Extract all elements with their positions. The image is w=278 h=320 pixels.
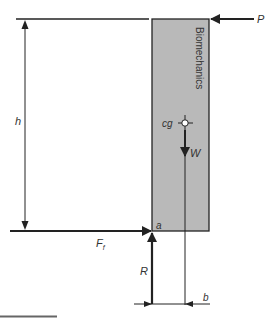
- moment-arm-arrow-right-icon: [185, 301, 193, 307]
- height-label: h: [15, 115, 21, 127]
- reaction-force-label: R: [140, 265, 148, 277]
- pivot-label: a: [156, 220, 162, 231]
- block-title: Biomechanics: [194, 27, 205, 89]
- moment-arm-arrow-left-icon: [144, 301, 152, 307]
- biomechanics-free-body-diagram: Biomechanics P h cg W a Ff R b: [0, 0, 278, 320]
- cg-label: cg: [162, 118, 173, 129]
- friction-force-label: Ff: [96, 237, 106, 251]
- moment-arm-label: b: [203, 292, 209, 303]
- height-arrow-bottom-icon: [22, 221, 29, 230]
- push-force-label: P: [257, 13, 265, 25]
- height-arrow-top-icon: [22, 20, 29, 29]
- cg-marker-icon: [182, 120, 188, 126]
- weight-label: W: [190, 147, 202, 159]
